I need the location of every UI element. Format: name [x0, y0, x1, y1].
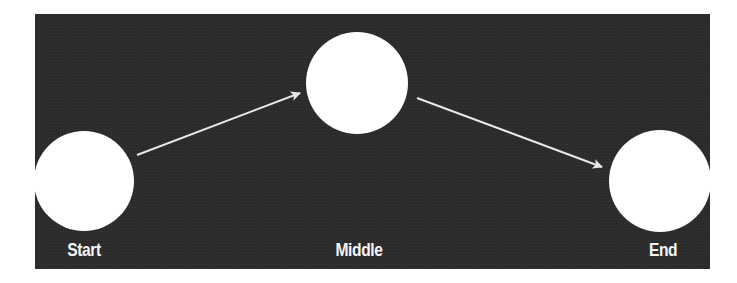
arrow-middle-to-end [417, 98, 602, 167]
nodes [34, 32, 711, 232]
node-end-circle [609, 130, 711, 232]
arrow-start-to-middle [137, 93, 300, 155]
node-start-label: Start [59, 240, 108, 260]
node-middle-circle [306, 32, 408, 134]
node-middle-label: Middle [330, 240, 387, 260]
node-end-label: End [643, 240, 684, 260]
node-start-circle [34, 131, 134, 231]
